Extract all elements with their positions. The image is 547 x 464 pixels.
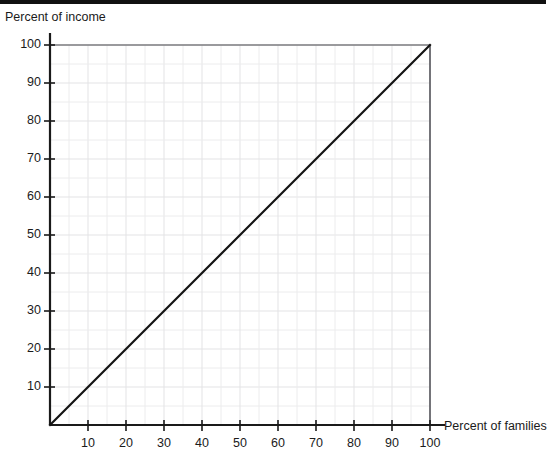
y-tick-label: 10 — [7, 380, 41, 393]
y-tick-label: 80 — [7, 114, 41, 127]
y-tick-label: 100 — [7, 38, 41, 51]
x-tick-label: 30 — [147, 437, 181, 450]
x-tick-label: 100 — [413, 437, 447, 450]
x-tick-label: 40 — [185, 437, 219, 450]
x-tick-label: 70 — [299, 437, 333, 450]
x-tick-label: 90 — [375, 437, 409, 450]
y-axis-title: Percent of income — [5, 10, 106, 24]
y-tick-label: 90 — [7, 76, 41, 89]
x-tick-label: 80 — [337, 437, 371, 450]
y-tick-label: 40 — [7, 266, 41, 279]
x-tick-label: 60 — [261, 437, 295, 450]
y-tick-label: 60 — [7, 190, 41, 203]
x-tick-label: 10 — [71, 437, 105, 450]
chart-canvas — [50, 45, 425, 425]
x-axis-title: Percent of families — [444, 419, 547, 433]
plot-area — [50, 45, 425, 425]
y-tick-label: 70 — [7, 152, 41, 165]
x-tick-label: 20 — [109, 437, 143, 450]
y-tick-label: 50 — [7, 228, 41, 241]
y-tick-label: 30 — [7, 304, 41, 317]
x-tick-label: 50 — [223, 437, 257, 450]
top-divider-rule — [0, 0, 546, 4]
y-tick-label: 20 — [7, 342, 41, 355]
